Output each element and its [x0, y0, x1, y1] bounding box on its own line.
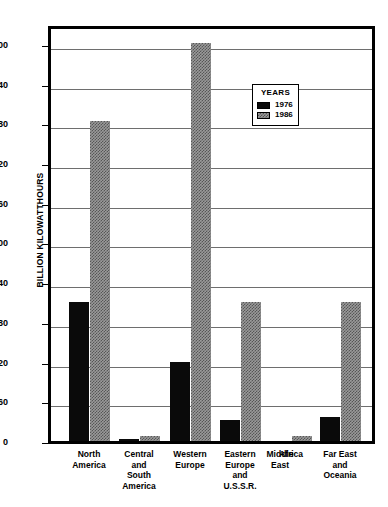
gridline [51, 367, 372, 368]
gridline [51, 208, 372, 209]
gridline [51, 287, 372, 288]
x-category-label: WesternEurope [164, 449, 216, 470]
x-cat-line: Africa [265, 449, 317, 460]
x-cat-line: South [113, 470, 165, 481]
legend-label-1976: 1976 [275, 101, 293, 109]
gridline [51, 247, 372, 248]
x-cat-line: Europe [164, 460, 216, 471]
gridline [51, 89, 372, 90]
x-cat-line: and [314, 460, 366, 471]
x-category-label: NorthAmerica [63, 449, 115, 470]
y-tick-label: 180 [0, 319, 8, 328]
legend-swatch-1986 [257, 112, 270, 119]
x-cat-line: North [63, 449, 115, 460]
x-category-label: CentralandSouthAmerica [113, 449, 165, 491]
legend-swatch-1976 [257, 102, 270, 109]
chart-legend: YEARS 1976 1986 [252, 84, 299, 126]
gridline [51, 128, 372, 129]
x-cat-line: U.S.S.R. [214, 481, 266, 492]
y-tick-label: 600 [0, 41, 8, 50]
legend-label-1986: 1986 [275, 111, 293, 119]
x-cat-line: America [113, 481, 165, 492]
x-category-label: Africa [265, 449, 317, 460]
y-tick-label: 360 [0, 200, 8, 209]
gridline [51, 168, 372, 169]
x-cat-line: Far East [314, 449, 366, 460]
y-axis-title: BILLION KILOWATTHOURS [35, 130, 45, 330]
x-category-label: Far EastandOceania [314, 449, 366, 481]
legend-item-1976: 1976 [257, 101, 298, 109]
x-cat-line: and [214, 470, 266, 481]
gridline [51, 327, 372, 328]
x-cat-line: America [63, 460, 115, 471]
y-tick-label: 240 [0, 279, 8, 288]
y-tick-label: 420 [0, 160, 8, 169]
y-tick-label: 60 [0, 398, 8, 407]
legend-item-1986: 1986 [257, 111, 298, 119]
x-cat-line: Oceania [314, 470, 366, 481]
gridline [51, 406, 372, 407]
y-tick-label: 300 [0, 239, 8, 248]
x-cat-line: Western [164, 449, 216, 460]
x-cat-line: Central [113, 449, 165, 460]
x-cat-line: East [254, 460, 306, 471]
gridlines [51, 29, 372, 441]
y-tick-label: 480 [0, 120, 8, 129]
x-axis-labels: NorthAmericaCentralandSouthAmericaWester… [48, 449, 375, 507]
gridline [51, 49, 372, 50]
legend-title: YEARS [253, 88, 298, 97]
x-cat-line: and [113, 460, 165, 471]
y-tick-label: 0 [0, 438, 8, 447]
y-tick-label: 120 [0, 359, 8, 368]
bar-chart: BILLION KILOWATTHOURS 060120180240300360… [0, 0, 388, 507]
y-tick-label: 540 [0, 81, 8, 90]
plot-area [48, 26, 375, 444]
